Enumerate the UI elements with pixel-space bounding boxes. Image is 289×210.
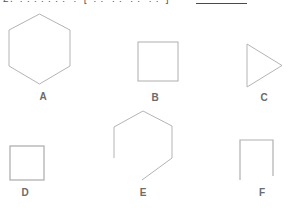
shape-label-a: A	[39, 91, 46, 102]
worksheet-page: 2. ??????? ? [ ?? ?? ?? ?? ] A B C D E F	[0, 0, 289, 210]
shapes-figure	[0, 0, 289, 210]
shape-square-d	[10, 146, 44, 180]
shape-label-e: E	[140, 187, 147, 198]
shape-open-square-f	[240, 140, 273, 180]
shape-triangle-c	[247, 44, 282, 87]
shape-label-b: B	[151, 92, 158, 103]
shape-label-d: D	[21, 187, 28, 198]
shape-label-f: F	[259, 187, 265, 198]
shape-hexagon-a	[9, 14, 70, 84]
shape-open-hexagon-e	[114, 111, 172, 180]
shape-square-b	[138, 42, 178, 81]
shape-label-c: C	[260, 92, 267, 103]
